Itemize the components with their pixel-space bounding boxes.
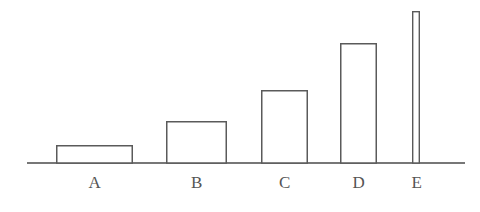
- bar-c: [262, 91, 308, 163]
- bar-chart-figure: A B C D E: [0, 0, 480, 212]
- bar-e: [413, 12, 420, 163]
- bars-group: [57, 12, 420, 163]
- x-tick-label-c: C: [279, 174, 291, 191]
- x-tick-label-d: D: [353, 174, 366, 191]
- bar-a: [57, 146, 133, 163]
- x-tick-label-a: A: [89, 174, 102, 191]
- bar-d: [341, 44, 377, 163]
- x-tick-label-e: E: [412, 174, 423, 191]
- plot-area: [0, 0, 480, 212]
- x-tick-label-b: B: [191, 174, 203, 191]
- bar-b: [167, 122, 227, 163]
